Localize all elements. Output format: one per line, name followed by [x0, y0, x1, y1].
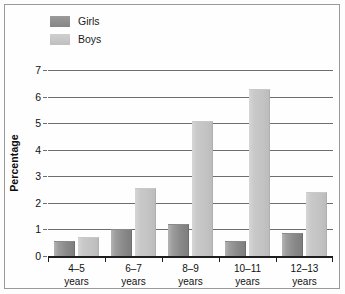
x-axis-label-unit: years — [219, 276, 276, 289]
bar-girls — [54, 241, 75, 256]
y-tick-label-4: 4 — [25, 144, 41, 156]
y-tick-label-1: 1 — [25, 223, 41, 235]
plot-area: 01234567 — [48, 70, 333, 256]
x-axis-label: 12–13years — [276, 263, 333, 288]
x-axis-label-range: 4–5 — [68, 263, 85, 274]
x-tick-mark — [48, 256, 49, 262]
x-axis-label-unit: years — [276, 276, 333, 289]
y-tick-mark-6 — [43, 97, 47, 98]
x-axis-tick-marks — [48, 256, 333, 262]
bar-group — [219, 70, 276, 256]
y-tick-mark-5 — [43, 123, 47, 124]
bar-boys — [249, 89, 270, 256]
bar-girls — [168, 224, 189, 256]
x-axis-label-range: 10–11 — [234, 263, 261, 274]
x-axis-label-range: 8–9 — [182, 263, 199, 274]
x-axis-label-range: 12–13 — [291, 263, 319, 274]
y-tick-mark-0 — [43, 256, 47, 257]
x-axis-label-unit: years — [48, 276, 105, 289]
legend-label-girls: Girls — [78, 16, 100, 27]
bar-group — [276, 70, 333, 256]
x-tick-mark — [105, 256, 106, 262]
x-tick-mark — [162, 256, 163, 262]
x-axis-label: 10–11years — [219, 263, 276, 288]
bar-boys — [192, 121, 213, 257]
bar-boys — [306, 192, 327, 256]
y-tick-mark-2 — [43, 203, 47, 204]
x-axis-label-unit: years — [105, 276, 162, 289]
y-tick-label-2: 2 — [25, 197, 41, 209]
legend-swatch-girls — [50, 16, 70, 27]
bar-group — [48, 70, 105, 256]
x-axis-label: 6–7years — [105, 263, 162, 288]
bar-girls — [282, 233, 303, 256]
x-tick-mark — [276, 256, 277, 262]
y-tick-label-0: 0 — [25, 250, 41, 262]
y-tick-mark-3 — [43, 176, 47, 177]
y-tick-label-7: 7 — [25, 64, 41, 76]
y-tick-label-5: 5 — [25, 117, 41, 129]
x-axis-label-range: 6–7 — [125, 263, 142, 274]
y-tick-mark-7 — [43, 70, 47, 71]
x-axis-label: 4–5years — [48, 263, 105, 288]
y-tick-mark-4 — [43, 150, 47, 151]
bar-group — [105, 70, 162, 256]
bar-girls — [111, 229, 132, 256]
legend-swatch-boys — [50, 34, 70, 45]
bar-group — [162, 70, 219, 256]
bar-boys — [78, 237, 99, 256]
chart-legend: Girls Boys — [50, 14, 170, 50]
bar-groups — [48, 70, 333, 256]
legend-item-girls: Girls — [50, 14, 170, 29]
y-axis-title-text: Percentage — [8, 134, 20, 192]
legend-label-boys: Boys — [78, 34, 101, 45]
y-axis-title: Percentage — [6, 70, 22, 256]
x-axis-label-unit: years — [162, 276, 219, 289]
bar-girls — [225, 241, 246, 256]
x-tick-mark — [332, 256, 333, 262]
legend-item-boys: Boys — [50, 32, 170, 47]
y-tick-label-3: 3 — [25, 170, 41, 182]
y-tick-mark-1 — [43, 229, 47, 230]
x-tick-mark — [219, 256, 220, 262]
x-axis-label: 8–9years — [162, 263, 219, 288]
bar-chart-figure: Girls Boys Percentage 01234567 4–5years6… — [0, 0, 345, 294]
y-tick-label-6: 6 — [25, 91, 41, 103]
bar-boys — [135, 188, 156, 256]
x-axis-labels: 4–5years6–7years8–9years10–11years12–13y… — [48, 263, 333, 288]
